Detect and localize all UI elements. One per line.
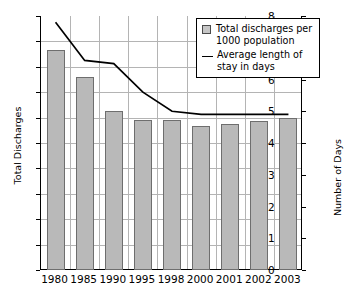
chart-container: Total Discharges Number of Days 02040608… xyxy=(0,0,360,302)
legend-label-line: Average length of stay in days xyxy=(217,49,315,72)
y-tick-label-right: 1 xyxy=(268,233,292,244)
y-tick-right xyxy=(302,175,306,176)
y-tick-label-right: 5 xyxy=(268,106,292,117)
square-swatch-icon xyxy=(202,25,211,34)
y-tick-right xyxy=(302,143,306,144)
legend-label-bar: Total discharges per 1000 population xyxy=(216,23,315,46)
y-tick-right xyxy=(302,111,306,112)
y-axis-left-title: Total Discharges xyxy=(12,91,23,201)
y-axis-right-title: Number of Days xyxy=(332,123,343,233)
y-tick-right xyxy=(302,270,306,271)
line-swatch-icon xyxy=(202,56,213,57)
y-tick-label-right: 3 xyxy=(268,170,292,181)
y-tick-label-right: 4 xyxy=(268,138,292,149)
y-tick-left xyxy=(36,16,40,17)
y-tick-left xyxy=(36,143,40,144)
y-tick-left xyxy=(36,168,40,169)
y-tick-left xyxy=(36,92,40,93)
y-tick-left xyxy=(36,194,40,195)
y-tick-left xyxy=(36,270,40,271)
y-tick-left xyxy=(36,219,40,220)
y-tick-left xyxy=(36,41,40,42)
y-tick-left xyxy=(36,118,40,119)
legend: Total discharges per 1000 population Ave… xyxy=(196,18,320,78)
y-tick-right xyxy=(302,207,306,208)
y-tick-right xyxy=(302,16,306,17)
y-tick-label-right: 2 xyxy=(268,202,292,213)
y-tick-left xyxy=(36,245,40,246)
x-tick-label: 2003 xyxy=(267,274,307,285)
legend-item-line: Average length of stay in days xyxy=(202,49,315,72)
y-tick-left xyxy=(36,67,40,68)
y-tick-right xyxy=(302,238,306,239)
y-tick-right xyxy=(302,80,306,81)
legend-item-bar: Total discharges per 1000 population xyxy=(202,23,315,46)
